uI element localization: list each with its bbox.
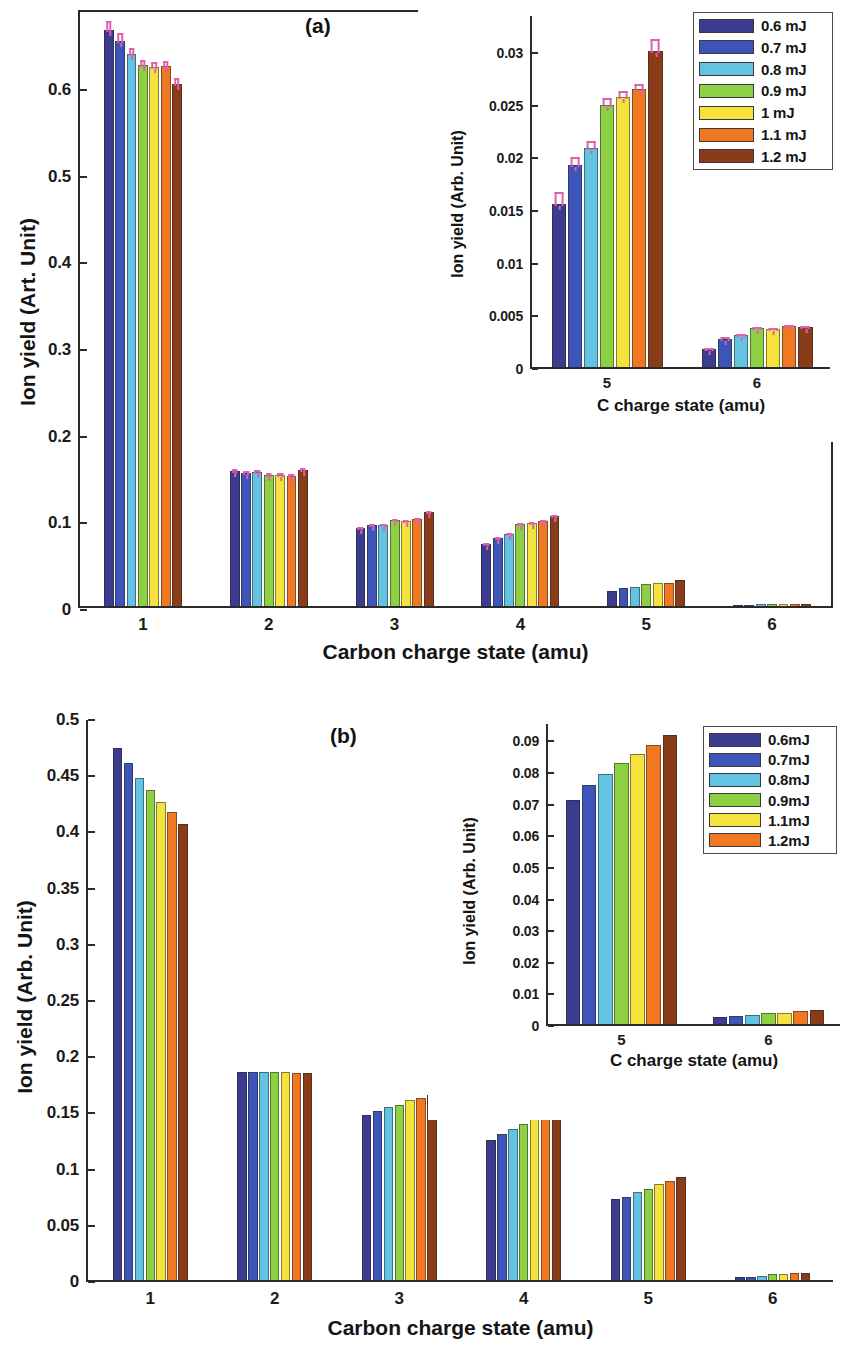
y-tick-label: 0.025 [489,98,532,114]
legend-row[interactable]: 0.9 mJ [699,82,826,99]
bar [757,1276,766,1280]
legend-row[interactable]: 0.7 mJ [699,39,826,56]
bar [779,1274,788,1280]
legend-row[interactable]: 0.6 mJ [699,17,826,34]
bar [519,1124,528,1280]
legend-label: 1.2 mJ [761,148,807,165]
bar [598,774,613,1024]
bar [530,1119,539,1280]
legend-row[interactable]: 0.7mJ [709,751,830,768]
y-tick-mark [88,719,95,721]
y-tick-mark [532,157,538,159]
y-tick-label: 0.6 [48,80,80,100]
bar [632,89,647,367]
error-bar [753,327,762,330]
bar [663,735,678,1024]
bar [504,534,514,606]
bar [619,588,629,606]
bar [607,591,617,606]
y-tick-label: 0.015 [489,203,532,219]
legend-swatch [709,733,761,747]
bar [405,1100,414,1280]
legend-row[interactable]: 0.9mJ [709,792,830,809]
legend-row[interactable]: 1.2mJ [709,832,830,849]
x-tick-label: 5 [642,606,651,635]
error-bar [403,520,409,523]
legend-row[interactable]: 0.6mJ [709,731,830,748]
y-tick-mark [532,368,538,370]
error-bar [484,543,490,546]
bar [790,604,800,606]
panel-b-xlabel: Carbon charge state (amu) [327,1280,593,1340]
legend-row[interactable]: 1.1 mJ [699,126,826,143]
bar [493,538,503,606]
panel-b-legend[interactable]: 0.6mJ0.7mJ0.8mJ0.9mJ1.1mJ1.2mJ [703,726,837,854]
legend-row[interactable]: 1 mJ [699,104,826,121]
bar [416,1098,425,1280]
legend-swatch [699,149,754,163]
y-tick-label: 0.2 [48,427,80,447]
y-tick-mark [80,609,87,611]
bar [124,763,133,1280]
bar [390,520,400,606]
legend-swatch [699,19,754,33]
x-tick-label: 2 [270,1280,279,1309]
bar [648,51,663,367]
bar [541,1115,550,1280]
legend-row[interactable]: 0.8mJ [709,771,830,788]
y-tick-mark [88,1169,95,1171]
bar [614,763,629,1024]
y-tick-label: 0.06 [513,828,548,844]
bar [801,604,811,606]
error-bar [801,326,810,329]
bar [630,587,640,606]
bar [646,745,661,1024]
bar [497,1134,506,1280]
y-tick-mark [80,522,87,524]
y-tick-label: 0.15 [47,1103,88,1123]
bar [424,512,434,606]
y-tick-mark [80,349,87,351]
error-bar [769,328,778,331]
error-bar [117,33,123,43]
bar [427,1095,436,1280]
error-bar [129,48,135,56]
bar [115,41,125,606]
legend-swatch [699,106,754,120]
error-bar [570,157,579,167]
y-tick-mark [548,740,554,742]
bar [367,525,377,606]
error-bar [106,21,112,32]
y-tick-mark [88,775,95,777]
panel-a-legend[interactable]: 0.6 mJ0.7 mJ0.8 mJ0.9 mJ1 mJ1.1 mJ1.2 mJ [693,12,833,170]
panel-a-inset-xlabel: C charge state (amu) [597,367,765,416]
error-bar [529,522,535,525]
legend-row[interactable]: 0.8 mJ [699,61,826,78]
y-tick-label: 0.03 [513,923,548,939]
bar [527,523,537,606]
bar [104,30,114,606]
legend-swatch [699,128,754,142]
legend-label: 0.9 mJ [761,82,807,99]
bar [481,544,491,606]
legend-row[interactable]: 1.1mJ [709,812,830,829]
y-tick-label: 0 [62,600,80,620]
y-tick-label: 0.03 [497,45,532,61]
y-tick-mark [548,993,554,995]
y-tick-mark [532,105,538,107]
bar [801,1273,810,1280]
panel-a-ylabel: Ion yield (Art. Unit) [16,192,40,432]
error-bar [369,524,375,527]
legend-label: 1 mJ [761,104,794,121]
panel-b-inset-xlabel: C charge state (amu) [610,1024,778,1071]
bar [676,1177,685,1280]
error-bar [152,62,158,69]
y-tick-label: 0.5 [56,710,88,730]
y-tick-mark [548,835,554,837]
legend-label: 1.1mJ [768,812,810,829]
legend-row[interactable]: 1.2 mJ [699,148,826,165]
y-tick-label: 0.5 [48,167,80,187]
error-bar [587,141,596,149]
bar [241,473,251,606]
y-tick-label: 0 [531,1018,548,1034]
